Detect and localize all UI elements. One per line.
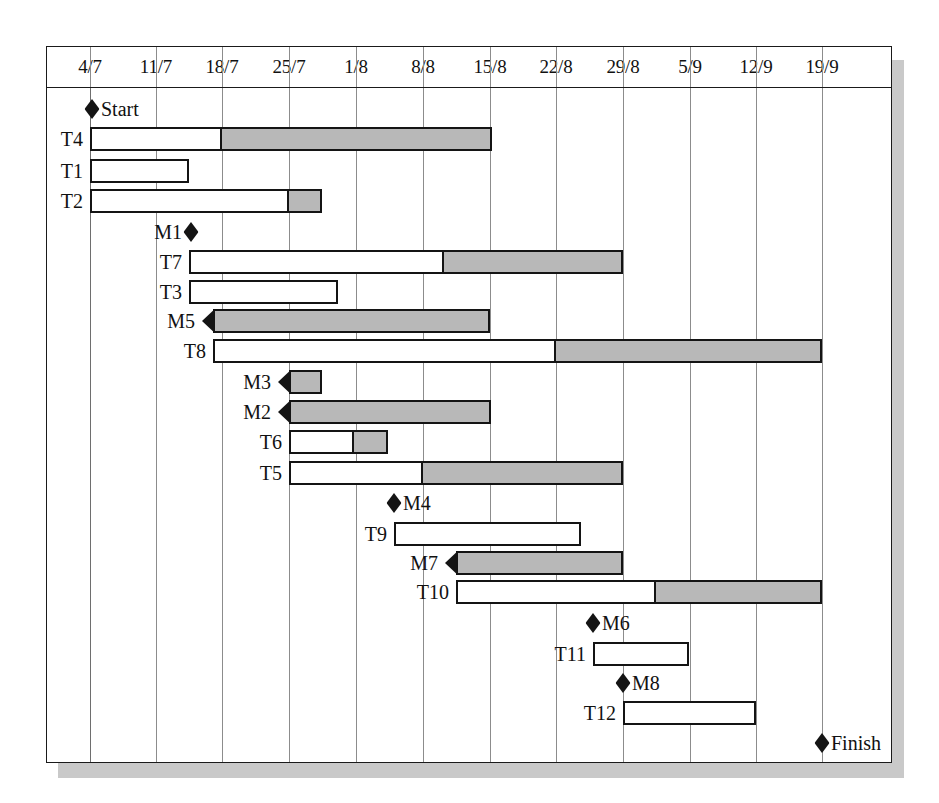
- row-label: T8: [184, 340, 213, 363]
- task-bar[interactable]: [90, 189, 322, 213]
- task-bar[interactable]: [456, 580, 822, 604]
- row-label: T10: [417, 581, 456, 604]
- summary-bar[interactable]: [456, 551, 623, 575]
- gantt-row-m3[interactable]: M3: [47, 369, 891, 395]
- gridline-vertical-header: [756, 47, 757, 87]
- task-bar[interactable]: [623, 701, 756, 725]
- row-label: T5: [260, 462, 289, 485]
- gantt-row-m7[interactable]: M7: [47, 550, 891, 576]
- gridline-vertical-header: [222, 47, 223, 87]
- gantt-row-t10[interactable]: T10: [47, 579, 891, 605]
- milestone-label: M4: [403, 492, 431, 515]
- summary-bar[interactable]: [213, 309, 490, 333]
- gantt-row-m4[interactable]: M4: [47, 490, 891, 516]
- task-bar-remaining: [554, 341, 820, 361]
- milestone-label: Start: [101, 98, 139, 121]
- gantt-row-start[interactable]: Start: [47, 96, 891, 122]
- gantt-row-finish[interactable]: Finish: [47, 730, 891, 756]
- gridline-vertical-header: [289, 47, 290, 87]
- row-label: T11: [555, 643, 593, 666]
- task-bar[interactable]: [90, 159, 189, 183]
- row-label: T9: [365, 523, 394, 546]
- gantt-row-t6[interactable]: T6: [47, 429, 891, 455]
- gridline-vertical-header: [423, 47, 424, 87]
- row-label: T6: [260, 431, 289, 454]
- gantt-row-m5[interactable]: M5: [47, 308, 891, 334]
- task-bar[interactable]: [189, 250, 623, 274]
- gantt-row-t1[interactable]: T1: [47, 158, 891, 184]
- task-bar-remaining: [220, 129, 490, 149]
- gantt-row-t5[interactable]: T5: [47, 460, 891, 486]
- row-label: T3: [160, 281, 189, 304]
- milestone-diamond-icon[interactable]: [616, 673, 631, 693]
- task-bar-remaining: [287, 191, 320, 211]
- milestone-diamond-icon[interactable]: [387, 493, 402, 513]
- gantt-row-t11[interactable]: T11: [47, 641, 891, 667]
- milestone-diamond-icon[interactable]: [815, 733, 830, 753]
- task-bar[interactable]: [289, 461, 623, 485]
- row-label: T1: [61, 160, 90, 183]
- gridline-vertical-header: [356, 47, 357, 87]
- row-label: M3: [243, 371, 278, 394]
- gridline-vertical-header: [556, 47, 557, 87]
- milestone-label: M6: [602, 612, 630, 635]
- gantt-row-t3[interactable]: T3: [47, 279, 891, 305]
- row-label: T12: [584, 702, 623, 725]
- task-bar-remaining: [352, 432, 386, 452]
- milestone-diamond-icon[interactable]: [184, 222, 199, 242]
- gantt-chart-image: 4/711/718/725/71/88/815/822/829/85/912/9…: [0, 0, 939, 803]
- milestone-label: M1: [154, 221, 182, 244]
- task-bar[interactable]: [394, 522, 581, 546]
- gantt-frame: 4/711/718/725/71/88/815/822/829/85/912/9…: [46, 46, 892, 763]
- milestone-label: Finish: [831, 732, 881, 755]
- summary-bar[interactable]: [289, 370, 322, 394]
- row-label: M7: [410, 552, 445, 575]
- milestone-diamond-icon[interactable]: [85, 99, 100, 119]
- gantt-row-m2[interactable]: M2: [47, 399, 891, 425]
- timeline-header: 4/711/718/725/71/88/815/822/829/85/912/9…: [47, 47, 891, 88]
- gantt-row-m8[interactable]: M8: [47, 670, 891, 696]
- gridline-vertical-header: [90, 47, 91, 87]
- task-bar-remaining: [421, 463, 621, 483]
- gantt-row-t8[interactable]: T8: [47, 338, 891, 364]
- gantt-row-t2[interactable]: T2: [47, 188, 891, 214]
- row-label: T7: [160, 251, 189, 274]
- gantt-row-t4[interactable]: T4: [47, 126, 891, 152]
- gridline-vertical-header: [490, 47, 491, 87]
- gantt-plot-area: StartT4T1T2M1T7T3M5T8M3M2T6T5M4T9M7T10M6…: [47, 88, 891, 762]
- gridline-vertical-header: [623, 47, 624, 87]
- gridline-vertical-header: [690, 47, 691, 87]
- task-bar[interactable]: [213, 339, 822, 363]
- gantt-row-m1[interactable]: M1: [47, 219, 891, 245]
- task-bar[interactable]: [593, 642, 689, 666]
- gantt-row-t7[interactable]: T7: [47, 249, 891, 275]
- task-bar-remaining: [654, 582, 820, 602]
- task-bar-remaining: [442, 252, 621, 272]
- row-label: T2: [61, 190, 90, 213]
- task-bar[interactable]: [189, 280, 338, 304]
- gantt-row-m6[interactable]: M6: [47, 610, 891, 636]
- gridline-vertical-header: [822, 47, 823, 87]
- task-bar[interactable]: [90, 127, 492, 151]
- row-label: T4: [61, 128, 90, 151]
- milestone-diamond-icon[interactable]: [586, 613, 601, 633]
- gantt-row-t12[interactable]: T12: [47, 700, 891, 726]
- row-label: M5: [167, 310, 202, 333]
- gridline-vertical-header: [156, 47, 157, 87]
- summary-bar[interactable]: [289, 400, 491, 424]
- milestone-label: M8: [632, 672, 660, 695]
- row-label: M2: [243, 401, 278, 424]
- task-bar[interactable]: [289, 430, 388, 454]
- gantt-row-t9[interactable]: T9: [47, 521, 891, 547]
